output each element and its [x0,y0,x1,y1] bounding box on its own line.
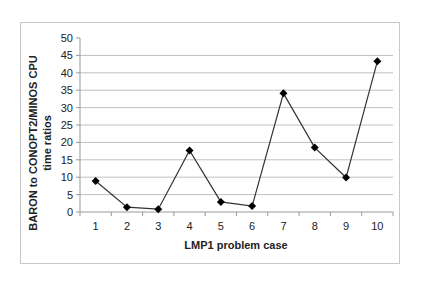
y-tick-label: 45 [61,49,73,61]
y-axis: 05101520253035404550 [61,32,80,218]
y-tick-label: 20 [61,136,73,148]
y-tick-label: 35 [61,84,73,96]
x-tick-label: 8 [312,220,318,232]
diamond-marker [248,202,256,210]
y-tick-label: 0 [67,206,73,218]
x-tick-label: 4 [186,220,192,232]
y-tick-label: 50 [61,32,73,44]
diamond-marker [373,57,381,65]
y-tick-label: 25 [61,119,73,131]
y-tick-label: 40 [61,67,73,79]
line-chart: 05101520253035404550 12345678910 BARON t… [0,0,422,283]
x-tick-label: 2 [124,220,130,232]
diamond-marker [217,198,225,206]
y-tick-label: 10 [61,171,73,183]
x-tick-label: 9 [343,220,349,232]
diamond-marker [186,146,194,154]
x-axis: 12345678910 [80,212,393,232]
y-tick-label: 30 [61,102,73,114]
x-tick-label: 7 [280,220,286,232]
x-tick-label: 3 [155,220,161,232]
x-tick-label: 5 [218,220,224,232]
y-axis-title-line1: BARON to CONOPT2/MINOS CPU [27,55,39,230]
x-tick-label: 10 [371,220,383,232]
x-axis-title: LMP1 problem case [184,239,287,251]
y-tick-label: 5 [67,189,73,201]
y-tick-label: 15 [61,154,73,166]
x-tick-label: 1 [93,220,99,232]
x-tick-label: 6 [249,220,255,232]
series-line [96,61,378,209]
data-series [92,57,382,213]
y-axis-title-line2: time ratios [41,115,53,171]
